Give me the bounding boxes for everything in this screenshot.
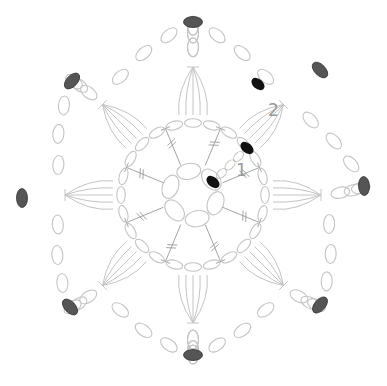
round1-chain-icon [185,119,202,127]
start-marker-icon [249,75,267,92]
round2-chain-icon [78,82,100,102]
start-chain-icon [215,167,229,181]
round1-chain-icon [247,222,263,241]
cluster-stitch-icon [65,195,113,202]
crochet-chart-graphic [0,0,387,386]
cluster-stitch-icon [102,257,141,286]
round2-chain-icon [52,124,64,144]
round1-chain-icon [256,204,269,223]
round1-chain-icon [202,119,221,132]
round2-chain-icon [51,245,63,265]
slip-stitch-marker-icon [184,350,203,361]
treble-slash-icon [211,244,218,251]
round2-chain-icon [288,287,310,305]
crochet-diagram: 1 2 [0,0,387,386]
treble-stitch-icon [165,128,180,165]
round2-chain-icon [231,320,253,340]
center-ring-chain-icon [176,161,202,181]
round2-chain-icon [109,300,131,320]
round2-chain-icon [52,155,64,175]
cluster-stitch-icon [193,67,200,115]
round-label-2: 2 [268,100,279,120]
cluster-stitch-icon [245,257,284,286]
round2-chain-icon [110,66,132,87]
round1-chain-icon [117,204,130,223]
treble-stitch-icon [165,225,180,262]
cluster-stitch-icon [273,195,321,202]
round2-chain-icon [52,215,64,235]
round2-chain-icon [133,320,155,340]
slip-stitch-marker-icon [309,59,330,80]
round1-chain-icon [261,187,269,204]
round2-chain-icon [231,43,253,64]
cluster-stitch-icon [102,247,131,286]
round2-chain-icon [206,335,228,355]
round2-chain-icon [325,244,337,263]
treble-slash-icon [137,213,144,220]
round2-chain-icon [56,273,68,293]
round2-chain-icon [300,109,321,130]
cluster-stitch-icon [102,104,141,133]
round1-chain-icon [165,119,184,132]
round2-chain-icon [321,272,333,291]
round2-chain-icon [188,38,199,57]
slip-stitch-marker-icon [184,17,203,28]
cluster-stitch-icon [255,247,284,286]
slip-stitch-marker-icon [16,188,27,207]
round2-chain-icon [341,153,362,174]
round2-chain-icon [188,330,199,349]
round2-chain-icon [58,96,70,116]
cluster-stitch-icon [186,67,193,115]
round1-chain-icon [117,187,125,204]
round1-chain-icon [202,258,221,271]
cluster-stitch-icon [65,188,113,195]
round2-chain-icon [133,43,155,64]
treble-stitch-icon [205,128,220,165]
treble-stitch-icon [126,167,163,182]
round2-chain-icon [323,214,335,233]
round2-chain-icon [206,25,228,46]
center-ring-chain-icon [184,209,210,229]
center-ring-chain-icon [161,196,189,225]
round1-chain-icon [123,150,139,169]
round2-chain-icon [158,335,180,355]
round1-chain-icon [148,125,167,141]
treble-slash-icon [210,242,217,249]
round2-chain-icon [330,185,351,200]
round1-chain-icon [220,249,239,265]
cluster-stitch-icon [193,275,200,323]
treble-stitch-icon [205,225,220,262]
round2-chain-icon [255,300,277,320]
start-chain-icon [223,158,237,172]
treble-slash-icon [169,142,176,149]
round1-chain-icon [185,263,202,271]
treble-stitch-icon [223,207,260,222]
treble-slash-icon [167,139,174,146]
round1-chain-icon [148,249,167,265]
round1-chain-icon [256,167,269,186]
cluster-stitch-icon [102,104,131,143]
treble-slash-icon [140,212,147,219]
round1-chain-icon [220,125,239,141]
round1-chain-icon [123,222,139,241]
round-label-1: 1 [236,160,247,180]
round2-chain-icon [158,25,180,46]
treble-stitch-icon [126,207,163,222]
round1-chain-icon [117,167,130,186]
round2-chain-icon [323,130,344,151]
round1-chain-icon [165,258,184,271]
cluster-stitch-icon [186,275,193,323]
cluster-stitch-icon [273,188,321,195]
